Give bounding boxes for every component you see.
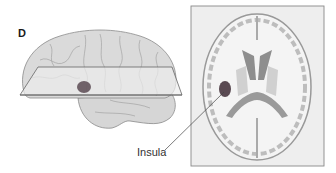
insula-label: Insula: [137, 146, 166, 158]
lateral-brain-view: [20, 30, 182, 128]
cutting-plane: [20, 67, 182, 95]
panel-label: D: [18, 27, 26, 39]
axial-section-view: [191, 6, 324, 166]
brain-figure: [0, 0, 336, 173]
insula-highlight-axial: [219, 81, 231, 97]
insula-highlight-lateral: [77, 81, 91, 93]
